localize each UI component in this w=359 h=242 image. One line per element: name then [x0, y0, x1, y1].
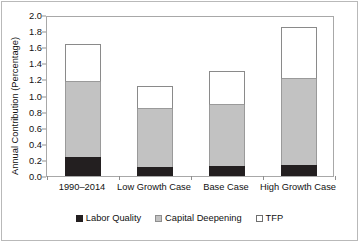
legend-item-capital-deepening: Capital Deepening — [155, 213, 242, 223]
y-axis-tick — [42, 32, 46, 33]
y-axis-tick-label: 0.8 — [29, 108, 42, 118]
y-axis-tick — [42, 64, 46, 65]
legend-label: Labor Quality — [86, 213, 141, 223]
y-axis-tick — [42, 177, 46, 178]
bar-group — [137, 86, 173, 176]
y-axis-tick — [42, 80, 46, 81]
x-axis-tick — [335, 176, 336, 180]
bar-group — [65, 44, 101, 176]
y-axis-tick — [42, 112, 46, 113]
bar-group — [209, 71, 245, 176]
bar-segment-capital-deepening — [281, 79, 317, 165]
y-axis-tick-label: 0.6 — [29, 124, 42, 134]
bar-segment-tfp — [209, 71, 245, 105]
plot-area — [46, 16, 334, 177]
legend-label: Capital Deepening — [165, 213, 242, 223]
legend-item-labor-quality: Labor Quality — [76, 213, 141, 223]
y-axis-tick-label: 1.6 — [29, 43, 42, 53]
bars-layer — [47, 17, 333, 176]
y-axis-tick — [42, 96, 46, 97]
bar-segment-labor-quality — [281, 165, 317, 176]
y-axis-tick — [42, 160, 46, 161]
bar-segment-tfp — [65, 44, 101, 82]
x-axis-label: High Growth Case — [255, 182, 341, 194]
legend-swatch-icon — [155, 215, 162, 222]
bar-segment-labor-quality — [209, 166, 245, 176]
legend-swatch-icon — [256, 215, 263, 222]
bar-segment-capital-deepening — [65, 82, 101, 157]
x-axis-tick — [263, 176, 264, 180]
bar-segment-tfp — [281, 27, 317, 79]
legend-label: TFP — [266, 213, 284, 223]
y-axis-tick-label: 0.2 — [29, 156, 42, 166]
bar-segment-tfp — [137, 86, 173, 109]
bar-segment-capital-deepening — [137, 109, 173, 167]
y-axis-tick — [42, 144, 46, 145]
y-axis-tick-label: 0.0 — [29, 172, 42, 182]
y-axis-tick — [42, 128, 46, 129]
legend-swatch-icon — [76, 215, 83, 222]
y-axis-tick-label: 2.0 — [29, 11, 42, 21]
bar-segment-labor-quality — [137, 167, 173, 176]
bar-group — [281, 27, 317, 176]
y-axis-tick-label: 1.0 — [29, 92, 42, 102]
y-axis-tick-label: 0.4 — [29, 140, 42, 150]
y-axis-title: Annual Contribution (Percentage) — [10, 16, 20, 196]
y-axis-tick — [42, 48, 46, 49]
x-axis-tick — [191, 176, 192, 180]
bar-segment-capital-deepening — [209, 105, 245, 166]
y-axis-tick-label: 1.8 — [29, 27, 42, 37]
y-axis-tick-label: 1.2 — [29, 75, 42, 85]
y-axis-tick — [42, 16, 46, 17]
y-axis-tick-label: 1.4 — [29, 59, 42, 69]
x-axis-tick — [119, 176, 120, 180]
legend-item-tfp: TFP — [256, 213, 284, 223]
bar-segment-labor-quality — [65, 157, 101, 176]
chart-legend: Labor QualityCapital DeepeningTFP — [0, 213, 359, 223]
chart-figure: Annual Contribution (Percentage) 2.01.81… — [0, 0, 359, 242]
x-axis-tick — [47, 176, 48, 180]
